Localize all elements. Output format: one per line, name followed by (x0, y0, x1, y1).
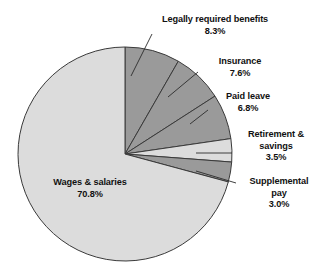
slice-label-value: 7.6% (196, 68, 284, 80)
pie-chart-figure: Legally required benefits 8.3% Insurance… (0, 0, 323, 275)
slice-label-name: Paid leave (206, 91, 290, 103)
slice-label-insurance: Insurance 7.6% (196, 56, 284, 79)
slice-label-value: 70.8% (38, 189, 142, 201)
slice-label-value: 8.3% (149, 26, 281, 38)
slice-label-supplemental-pay: Supplemental pay 3.0% (238, 176, 320, 211)
slice-label-name: Legally required benefits (149, 14, 281, 26)
slice-label-paid-leave: Paid leave 6.8% (206, 91, 290, 114)
pie-slices-group (18, 47, 232, 261)
slice-label-value: 3.0% (238, 199, 320, 211)
slice-label-name-line1: Supplemental (238, 176, 320, 188)
slice-label-value: 3.5% (233, 152, 319, 164)
slice-label-name-line2: savings (233, 141, 319, 153)
slice-label-retirement-savings: Retirement & savings 3.5% (233, 129, 319, 164)
slice-label-name: Insurance (196, 56, 284, 68)
slice-label-wages-salaries: Wages & salaries 70.8% (38, 177, 142, 200)
slice-label-value: 6.8% (206, 103, 290, 115)
slice-label-name: Wages & salaries (38, 177, 142, 189)
slice-label-legally-required-benefits: Legally required benefits 8.3% (149, 14, 281, 37)
slice-label-name-line2: pay (238, 188, 320, 200)
slice-label-name-line1: Retirement & (233, 129, 319, 141)
